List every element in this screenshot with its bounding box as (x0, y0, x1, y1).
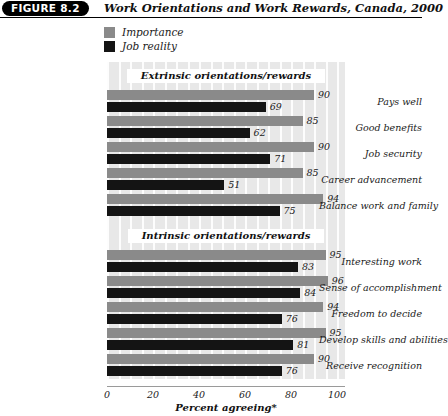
gridline (326, 62, 328, 379)
category-label: Sense of accomplishment (319, 282, 422, 293)
bar-value-label: 69 (270, 102, 282, 112)
bar-importance (107, 194, 323, 204)
bar-value-label: 75 (284, 206, 296, 216)
bar-value-label: 76 (286, 366, 298, 376)
x-axis-line (107, 386, 345, 387)
bar-job_reality (107, 314, 282, 324)
plot-area: Extrinsic orientations/rewards9069856290… (107, 62, 345, 379)
bar-job_reality (107, 340, 293, 350)
category-label: Receive recognition (319, 360, 422, 371)
x-tick-label: 60 (230, 389, 260, 401)
x-axis-title: Percent agreeing* (107, 402, 345, 413)
bar-value-label: 85 (307, 116, 319, 126)
band-header: Intrinsic orientations/rewards (107, 228, 345, 244)
bar-value-label: 81 (297, 340, 309, 350)
bar-job_reality (107, 366, 282, 376)
category-label: Balance work and family (319, 200, 422, 211)
bar-importance (107, 328, 326, 338)
x-tick-label: 100 (322, 389, 352, 401)
bar-job_reality (107, 262, 298, 272)
bar-value-label: 51 (228, 180, 240, 190)
bar-importance (107, 142, 314, 152)
bar-job_reality (107, 102, 266, 112)
bar-importance (107, 302, 323, 312)
x-tick-label: 40 (184, 389, 214, 401)
bar-importance (107, 116, 303, 126)
category-label: Good benefits (319, 122, 422, 133)
bar-job_reality (107, 206, 280, 216)
bar-importance (107, 168, 303, 178)
category-label: Pays well (319, 96, 422, 107)
bar-value-label: 85 (307, 168, 319, 178)
bar-value-label: 76 (286, 314, 298, 324)
x-tick-label: 0 (92, 389, 122, 401)
bar-importance (107, 250, 326, 260)
bar-job_reality (107, 288, 300, 298)
bar-value-label: 71 (274, 154, 286, 164)
category-label: Job security (319, 148, 422, 159)
category-label: Career advancement (319, 174, 422, 185)
band-header: Extrinsic orientations/rewards (107, 68, 345, 84)
bar-importance (107, 276, 328, 286)
category-label: Interesting work (319, 256, 422, 267)
bar-value-label: 83 (302, 262, 314, 272)
bar-job_reality (107, 180, 224, 190)
bar-value-label: 62 (254, 128, 266, 138)
bar-importance (107, 90, 314, 100)
bar-importance (107, 354, 314, 364)
band-header-label: Extrinsic orientations/rewards (127, 69, 325, 83)
x-tick-label: 80 (276, 389, 306, 401)
bar-job_reality (107, 128, 250, 138)
bar-job_reality (107, 154, 270, 164)
x-tick-label: 20 (138, 389, 168, 401)
bar-value-label: 84 (304, 288, 316, 298)
band-header-label: Intrinsic orientations/rewards (128, 229, 325, 243)
category-label: Freedom to decide (319, 308, 422, 319)
category-label: Develop skills and abilities (319, 334, 422, 345)
